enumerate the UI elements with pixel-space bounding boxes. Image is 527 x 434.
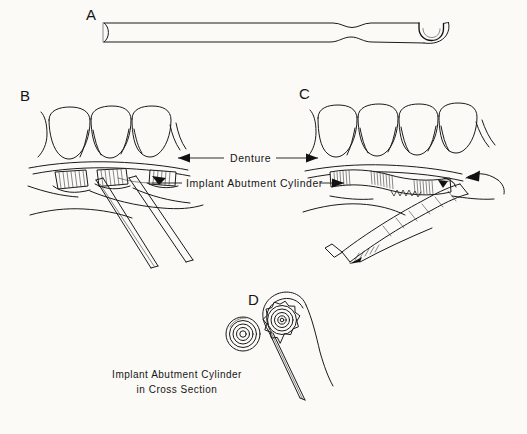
- panel-d-group: D: [112, 291, 333, 400]
- instrument-probe-b-left: [96, 178, 158, 268]
- panel-a-group: A: [86, 6, 449, 43]
- label-implant-abutment-cylinder: Implant Abutment Cylinder: [186, 177, 323, 189]
- panel-a-letter: A: [86, 6, 96, 23]
- cross-section-plain: [226, 317, 260, 351]
- panel-c-letter: C: [299, 85, 310, 102]
- gingiva-contour-c: [303, 190, 494, 264]
- denture-teeth-c: [309, 103, 495, 157]
- denture-arrow-left: [178, 154, 190, 163]
- dental-implant-figure: A B: [0, 0, 527, 434]
- panel-b-group: B: [20, 87, 203, 268]
- gingiva-contour-b: [28, 186, 203, 218]
- denture-teeth-b: [38, 106, 186, 159]
- panel-b-letter: B: [20, 87, 30, 104]
- label-denture: Denture: [230, 152, 271, 164]
- panel-d-letter: D: [248, 291, 259, 308]
- instrument-shaft-a: [103, 23, 449, 44]
- cross-section-engaged: [263, 292, 333, 400]
- label-denture-group: Denture: [178, 152, 318, 164]
- rotation-arrow-c: [466, 171, 504, 195]
- implant-cylinder-bar-c: [330, 170, 456, 195]
- panel-c-group: C: [299, 85, 504, 264]
- denture-arrow-right: [306, 154, 318, 163]
- caption-line-1: Implant Abutment Cylinder: [112, 369, 242, 380]
- instrument-probe-c: [325, 184, 468, 262]
- caption-line-2: in Cross Section: [137, 384, 218, 395]
- figure-container: A B: [0, 0, 527, 434]
